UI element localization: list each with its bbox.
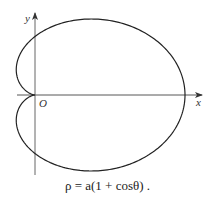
y-axis-label: y [24, 12, 30, 24]
origin-label: O [39, 97, 47, 109]
x-axis-label: x [195, 96, 201, 108]
cardioid-plot: y x O [0, 0, 215, 201]
equation-caption: ρ = a(1 + cosθ) . [0, 178, 215, 194]
cardioid-figure: y x O ρ = a(1 + cosθ) . [0, 0, 215, 201]
